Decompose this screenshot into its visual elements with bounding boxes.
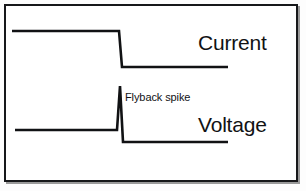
current-trace-line: [12, 31, 228, 67]
voltage-label: Voltage: [198, 114, 267, 135]
voltage-trace-line: [15, 86, 228, 142]
waveform-figure: Current Voltage Flyback spike: [0, 0, 306, 191]
series-current: [12, 31, 228, 67]
series-voltage: [15, 86, 228, 142]
current-label: Current: [198, 32, 267, 53]
flyback-spike-annotation: Flyback spike: [125, 92, 190, 103]
